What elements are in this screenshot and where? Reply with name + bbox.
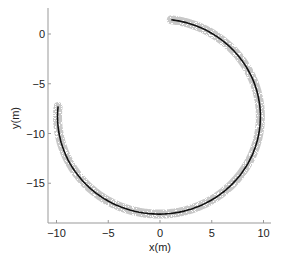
- x-tick-label: 5: [209, 227, 215, 239]
- scatter-band: [58, 20, 261, 214]
- y-ticks: −15−10−50: [26, 28, 51, 189]
- x-tick-label: −10: [47, 227, 66, 239]
- plot-area: −10−50510 −15−10−50 x(m) y(m): [9, 8, 271, 253]
- x-tick-label: −5: [102, 227, 115, 239]
- y-axis-label: y(m): [9, 107, 21, 129]
- y-tick-label: −5: [32, 78, 45, 90]
- y-tick-label: 0: [39, 28, 45, 40]
- y-tick-label: −15: [26, 177, 45, 189]
- x-tick-label: 10: [257, 227, 269, 239]
- x-axis-label: x(m): [149, 241, 171, 253]
- y-tick-label: −10: [26, 128, 45, 140]
- x-tick-label: 0: [157, 227, 163, 239]
- trajectory-chart: −10−50510 −15−10−50 x(m) y(m): [0, 0, 285, 263]
